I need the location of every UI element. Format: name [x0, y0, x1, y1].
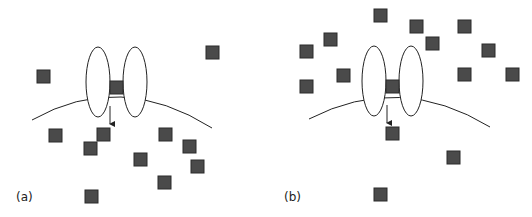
membrane-curve	[309, 97, 490, 127]
particle-square	[191, 160, 204, 173]
particle-square	[324, 33, 337, 46]
particle-square	[206, 46, 219, 59]
particle-square	[183, 140, 196, 153]
particle-square	[426, 37, 439, 50]
particle-square	[374, 9, 387, 22]
particle-square	[458, 20, 471, 33]
particle-square	[97, 128, 110, 141]
particle-square	[482, 44, 495, 57]
diagram-canvas	[0, 0, 532, 217]
particle-square	[386, 127, 399, 140]
particle-square	[85, 190, 98, 203]
channel-particle	[386, 80, 399, 93]
particle-square	[410, 20, 423, 33]
particle-square	[84, 142, 97, 155]
channel-left-ellipse	[86, 47, 110, 117]
particle-square	[159, 128, 172, 141]
particle-square	[37, 70, 50, 83]
membrane-curve	[32, 97, 212, 128]
particle-square	[134, 153, 147, 166]
particle-square	[300, 80, 313, 93]
particle-square	[49, 129, 62, 142]
panel-b-label: (b)	[284, 190, 301, 204]
particle-square	[458, 68, 471, 81]
particle-square	[337, 69, 350, 82]
panel-a-label: (a)	[16, 190, 33, 204]
particle-square	[374, 188, 387, 201]
particle-square	[158, 176, 171, 189]
particle-square	[300, 45, 313, 58]
channel-right-ellipse	[399, 46, 423, 116]
channel-particle	[110, 81, 123, 94]
channel-right-ellipse	[123, 47, 147, 117]
particle-square	[447, 151, 460, 164]
channel-left-ellipse	[362, 46, 386, 116]
particle-square	[506, 68, 519, 81]
